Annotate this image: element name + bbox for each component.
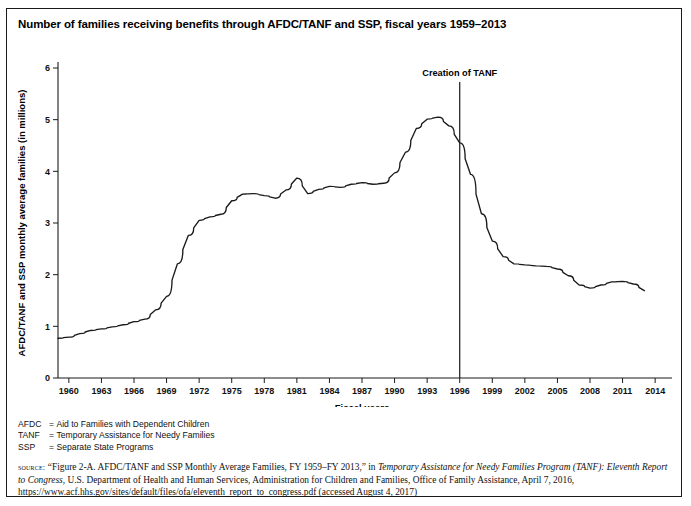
- abbreviation-item: TANF= Temporary Assistance for Needy Fam…: [18, 430, 215, 441]
- y-tick-label: 4: [45, 167, 50, 177]
- y-axis-title: AFDC/TANF and SSP monthly average famili…: [16, 90, 27, 357]
- abbreviation-key: AFDC: [18, 419, 49, 430]
- x-tick-label: 2008: [580, 386, 600, 396]
- abbreviation-value: Temporary Assistance for Needy Families: [56, 430, 214, 440]
- abbreviations-legend: AFDC= Aid to Families with Dependent Chi…: [18, 419, 215, 453]
- x-tick-label: 1960: [59, 386, 79, 396]
- abbreviation-value: Aid to Families with Dependent Children: [56, 419, 209, 429]
- x-tick-label: 2011: [613, 386, 633, 396]
- data-series-line: [58, 117, 644, 338]
- abbreviation-key: TANF: [18, 430, 49, 441]
- chart-plot-area: 0123456 19601963196619691972197519781981…: [14, 52, 674, 407]
- x-tick-label: 1987: [352, 386, 372, 396]
- x-tick-label: 1990: [385, 386, 405, 396]
- source-text-part-1: “Figure 2-A. AFDC/TANF and SSP Monthly A…: [45, 462, 377, 472]
- abbreviation-item: AFDC= Aid to Families with Dependent Chi…: [18, 419, 215, 430]
- x-tick-label: 1984: [319, 386, 339, 396]
- x-tick-label: 1966: [124, 386, 144, 396]
- figure-title: Number of families receiving benefits th…: [18, 18, 506, 30]
- y-tick-label: 2: [45, 270, 50, 280]
- y-tick-label: 6: [45, 63, 50, 73]
- source-note: source: “Figure 2-A. AFDC/TANF and SSP M…: [18, 461, 670, 499]
- y-tick-label: 0: [45, 373, 50, 383]
- x-axis-title: Fiscal years: [335, 402, 389, 407]
- x-tick-label: 2005: [547, 386, 567, 396]
- x-tick-label: 2002: [515, 386, 535, 396]
- x-tick-label: 2014: [645, 386, 665, 396]
- x-tick-label: 1999: [482, 386, 502, 396]
- abbreviation-equals: =: [49, 430, 54, 440]
- y-tick-label: 1: [45, 322, 50, 332]
- abbreviation-key: SSP: [18, 442, 49, 453]
- x-tick-label: 1981: [287, 386, 307, 396]
- y-tick-label: 3: [45, 218, 50, 228]
- tanf-creation-annotation-label: Creation of TANF: [422, 68, 497, 78]
- abbreviation-equals: =: [49, 442, 54, 452]
- source-label: source:: [18, 462, 45, 472]
- x-tick-label: 1972: [189, 386, 209, 396]
- x-tick-label: 1969: [157, 386, 177, 396]
- figure-page: Number of families receiving benefits th…: [0, 0, 691, 506]
- abbreviation-item: SSP= Separate State Programs: [18, 442, 215, 453]
- x-tick-label: 1996: [450, 386, 470, 396]
- x-axis-ticks: 1960196319661969197219751978198119841987…: [59, 378, 665, 396]
- line-chart: 0123456 19601963196619691972197519781981…: [14, 52, 674, 407]
- abbreviation-value: Separate State Programs: [56, 442, 153, 452]
- y-tick-label: 5: [45, 115, 50, 125]
- x-tick-label: 1978: [254, 386, 274, 396]
- source-text-part-2: , U.S. Department of Health and Human Se…: [18, 475, 574, 498]
- y-axis-ticks: 0123456: [45, 63, 58, 383]
- abbreviation-equals: =: [49, 419, 54, 429]
- x-tick-label: 1993: [417, 386, 437, 396]
- x-tick-label: 1963: [91, 386, 111, 396]
- x-tick-label: 1975: [222, 386, 242, 396]
